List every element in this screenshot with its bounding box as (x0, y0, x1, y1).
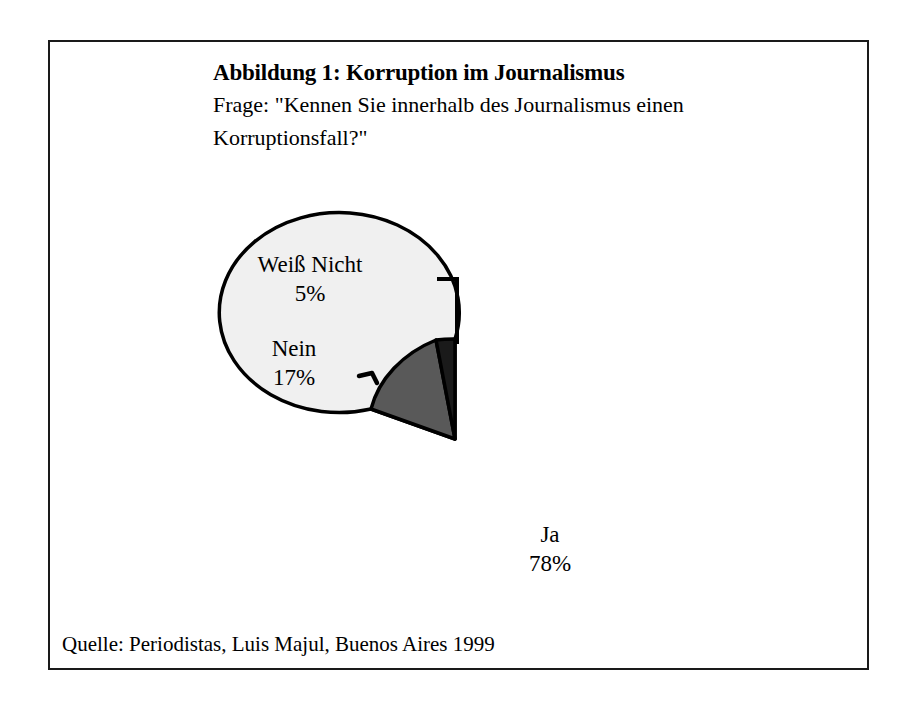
pie-chart (50, 42, 871, 672)
pie-label-ja: Ja 78% (495, 520, 605, 578)
figure-frame: Abbildung 1: Korruption im Journalismus … (48, 40, 869, 670)
pie-label-nein: Nein 17% (230, 334, 358, 392)
source-note: Quelle: Periodistas, Luis Majul, Buenos … (62, 631, 495, 657)
pie-label-ja-value: 78% (495, 549, 605, 578)
pie-label-weiss-nicht: Weiß Nicht 5% (225, 250, 395, 308)
pie-label-ja-name: Ja (495, 520, 605, 549)
pie-label-nein-name: Nein (230, 334, 358, 363)
pie-label-weiss-nicht-value: 5% (225, 279, 395, 308)
pie-label-nein-value: 17% (230, 363, 358, 392)
pie-label-weiss-nicht-name: Weiß Nicht (225, 250, 395, 279)
